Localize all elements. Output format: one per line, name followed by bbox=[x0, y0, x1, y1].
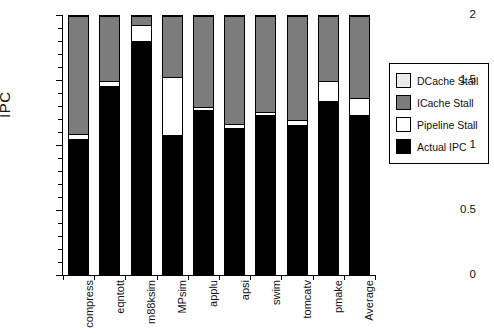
legend-swatch-icon bbox=[396, 95, 411, 110]
x-label-slot: m88ksim bbox=[125, 278, 156, 334]
bar-m88ksim[interactable] bbox=[131, 15, 152, 275]
x-axis-tick-label: Average bbox=[363, 280, 375, 321]
x-axis-tick-label: compress bbox=[83, 280, 95, 328]
segment-actual-ipc bbox=[69, 140, 88, 274]
segment-actual-ipc bbox=[132, 42, 151, 274]
bar-slot bbox=[94, 15, 125, 275]
x-axis-tick-label: MPsim bbox=[176, 280, 188, 314]
bar-compress[interactable] bbox=[68, 15, 89, 275]
legend-item[interactable]: Pipeline Stall bbox=[396, 114, 483, 135]
bar-slot bbox=[188, 15, 219, 275]
bar-pmake[interactable] bbox=[318, 15, 339, 275]
segment-pipeline-stall bbox=[319, 82, 338, 102]
bar-slot bbox=[281, 15, 312, 275]
bar-group bbox=[63, 15, 375, 275]
x-tick bbox=[375, 275, 376, 280]
x-axis-tick-label: tomcatv bbox=[301, 280, 313, 319]
x-label-slot: applu bbox=[188, 278, 219, 334]
segment-actual-ipc bbox=[350, 116, 369, 274]
segment-icache-stall bbox=[225, 17, 244, 124]
legend-swatch-icon bbox=[396, 139, 411, 154]
segment-pipeline-stall bbox=[163, 78, 182, 135]
segment-actual-ipc bbox=[288, 126, 307, 274]
segment-pipeline-stall bbox=[350, 99, 369, 116]
bar-mpsim[interactable] bbox=[162, 15, 183, 275]
segment-icache-stall bbox=[319, 17, 338, 81]
bar-slot bbox=[313, 15, 344, 275]
segment-icache-stall bbox=[288, 17, 307, 120]
bar-slot bbox=[125, 15, 156, 275]
x-label-slot: apsi bbox=[219, 278, 250, 334]
segment-icache-stall bbox=[194, 17, 213, 107]
segment-icache-stall bbox=[69, 17, 88, 134]
y-axis-ticks bbox=[48, 15, 62, 276]
bar-apsi[interactable] bbox=[224, 15, 245, 275]
y-tick-label: 0.5 bbox=[460, 204, 476, 215]
x-label-slot: pmake bbox=[313, 278, 344, 334]
bar-slot bbox=[157, 15, 188, 275]
segment-icache-stall bbox=[132, 17, 151, 25]
x-axis-tick-label: eqntott bbox=[114, 280, 126, 314]
legend-label: Pipeline Stall bbox=[417, 119, 478, 131]
segment-actual-ipc bbox=[319, 102, 338, 274]
segment-pipeline-stall bbox=[132, 26, 151, 42]
legend-swatch-icon bbox=[396, 73, 411, 88]
x-label-slot: tomcatv bbox=[281, 278, 312, 334]
x-axis-tick-label: m88ksim bbox=[145, 280, 157, 324]
x-label-slot: swim bbox=[250, 278, 281, 334]
x-label-slot: compress bbox=[63, 278, 94, 334]
bar-eqntott[interactable] bbox=[99, 15, 120, 275]
segment-actual-ipc bbox=[163, 136, 182, 274]
bar-average[interactable] bbox=[349, 15, 370, 275]
bar-slot bbox=[250, 15, 281, 275]
segment-icache-stall bbox=[256, 17, 275, 112]
legend-swatch-icon bbox=[396, 117, 411, 132]
x-axis-tick-label: pmake bbox=[332, 280, 344, 313]
bar-slot bbox=[63, 15, 94, 275]
bar-swim[interactable] bbox=[255, 15, 276, 275]
x-label-slot: eqntott bbox=[94, 278, 125, 334]
x-axis-labels: compresseqntottm88ksimMPsimappluapsiswim… bbox=[63, 278, 375, 334]
bar-tomcatv[interactable] bbox=[287, 15, 308, 275]
x-label-slot: Average bbox=[344, 278, 375, 334]
legend-label: Actual IPC bbox=[417, 141, 467, 153]
y-tick-label: 1.5 bbox=[460, 74, 476, 85]
segment-actual-ipc bbox=[194, 111, 213, 274]
y-axis-title: IPC bbox=[0, 91, 13, 118]
segment-actual-ipc bbox=[100, 87, 119, 274]
segment-actual-ipc bbox=[256, 116, 275, 274]
segment-icache-stall bbox=[100, 17, 119, 81]
x-axis-tick-label: applu bbox=[207, 280, 219, 307]
x-axis-tick-label: swim bbox=[270, 280, 282, 305]
y-tick-label: 1 bbox=[470, 139, 476, 150]
legend-item[interactable]: ICache Stall bbox=[396, 92, 483, 113]
y-tick-label: 2 bbox=[470, 9, 476, 20]
segment-icache-stall bbox=[163, 17, 182, 77]
ipc-stacked-bar-chart: IPC compresseqntottm88ksimMPsimappluapsi… bbox=[0, 0, 494, 334]
y-tick-label: 0 bbox=[470, 269, 476, 280]
bar-applu[interactable] bbox=[193, 15, 214, 275]
bar-slot bbox=[344, 15, 375, 275]
segment-icache-stall bbox=[350, 17, 369, 98]
legend-label: ICache Stall bbox=[417, 97, 474, 109]
x-axis-tick-label: apsi bbox=[239, 280, 251, 300]
bar-slot bbox=[219, 15, 250, 275]
x-label-slot: MPsim bbox=[157, 278, 188, 334]
segment-actual-ipc bbox=[225, 129, 244, 274]
